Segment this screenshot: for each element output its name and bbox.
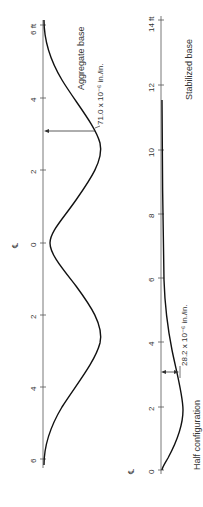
left-tick-label: 6 ft (30, 24, 38, 35)
right-tick-label: 2 (148, 407, 156, 411)
left-tick-label: 2 (30, 170, 38, 174)
aggregate-arrowhead (44, 129, 49, 133)
aggregate-base-title: Aggregate base (77, 26, 86, 90)
right-centerline-symbol: ℄ (128, 469, 136, 474)
right-tick-label: 12 (148, 83, 156, 92)
right-tick-label: 8 (148, 214, 156, 218)
left-tick-label: 6 (30, 459, 38, 463)
right-tick-label: 0 (148, 470, 156, 474)
right-tick-label: 14 ft (148, 16, 156, 32)
right-tick-label: 6 (148, 278, 156, 282)
left-tick-label: 4 (30, 98, 38, 102)
stabilized-base-curve (162, 100, 183, 470)
left-tick-label: 0 (30, 243, 38, 247)
right-tick-label: 4 (148, 342, 156, 346)
stabilized-base-title: Stabilized base (185, 39, 194, 100)
left-tick-label: 4 (30, 387, 38, 391)
stabilized-arrowhead-left (161, 370, 166, 374)
left-tick-label: 2 (30, 315, 38, 319)
aggregate-base-curve (44, 20, 101, 465)
aggregate-annotation: 71.0 x 10⁻⁶ in./in. (97, 63, 105, 125)
left-centerline-symbol: ℄ (12, 243, 20, 248)
half-configuration-label: Half configuration (193, 400, 202, 470)
stabilized-annotation: 28.2 x 10⁻⁶ in./in. (181, 304, 189, 366)
aggregate-leader (95, 126, 100, 128)
right-tick-label: 10 (148, 148, 156, 157)
